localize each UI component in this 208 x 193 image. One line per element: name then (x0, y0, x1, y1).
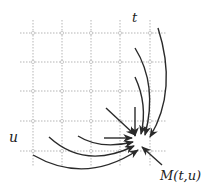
grid-node (31, 119, 34, 122)
grid-node (148, 119, 151, 122)
dotted-grid (20, 20, 166, 166)
grid-node (60, 149, 63, 152)
grid-node (60, 119, 63, 122)
arrow-curve-top-inner (135, 77, 143, 134)
grid-node (148, 60, 151, 63)
grid-node (60, 89, 63, 92)
grid-node (31, 31, 34, 34)
arrows (33, 28, 166, 169)
arrow-label-pointer (142, 147, 162, 165)
grid-node (31, 149, 34, 152)
grid-node (89, 149, 92, 152)
grid-node (118, 60, 121, 63)
grid-node (148, 31, 151, 34)
arrow-curve-left-outer (33, 150, 138, 169)
grid-node (60, 31, 63, 34)
convergence-diagram: t u M(t,u) (0, 0, 208, 193)
axis-label-t: t (132, 10, 138, 25)
grid-node (31, 60, 34, 63)
grid-node (60, 60, 63, 63)
grid-node (89, 119, 92, 122)
grid-node (118, 31, 121, 34)
grid-node (89, 31, 92, 34)
grid-node (118, 89, 121, 92)
grid-node (31, 89, 34, 92)
grid-node (89, 60, 92, 63)
point-label-m: M(t,u) (159, 168, 201, 183)
axis-label-u: u (9, 129, 18, 145)
grid-node (89, 89, 92, 92)
grid-node (148, 149, 151, 152)
